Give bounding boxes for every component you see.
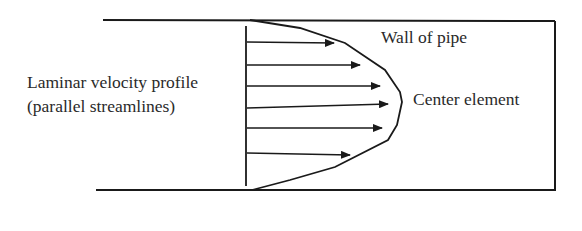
velocity-arrow bbox=[247, 153, 350, 155]
velocity-arrows bbox=[247, 42, 388, 155]
center-element-label: Center element bbox=[413, 89, 520, 109]
laminar-flow-diagram: Laminar velocity profile (parallel strea… bbox=[0, 0, 582, 231]
pipe-wall-top bbox=[103, 20, 555, 21]
velocity-arrow bbox=[247, 42, 334, 43]
diagram-svg: Laminar velocity profile (parallel strea… bbox=[0, 0, 582, 231]
velocity-arrow bbox=[247, 104, 388, 108]
profile-label-line1: Laminar velocity profile bbox=[27, 72, 198, 92]
profile-label-line2: (parallel streamlines) bbox=[27, 96, 175, 116]
wall-of-pipe-label: Wall of pipe bbox=[381, 27, 467, 47]
